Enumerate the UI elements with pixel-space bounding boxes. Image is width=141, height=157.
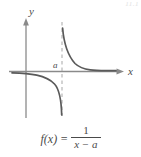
figure-container: 11.1 y x a f(x) =1x − a (0, 0, 141, 157)
y-axis-arrowhead (23, 18, 29, 26)
curve-left-branch (12, 73, 62, 115)
formula-numerator: 1 (71, 125, 100, 137)
asymptote-tick-label: a (53, 60, 58, 70)
formula-denominator: x − a (71, 138, 100, 150)
y-axis-label: y (28, 5, 34, 17)
curve-right-branch (63, 28, 116, 71)
graph-plot: y x a (0, 0, 141, 126)
x-axis-label: x (127, 65, 133, 77)
x-axis-arrowhead (117, 69, 125, 75)
formula-left-hand-side: f(x) = (40, 133, 68, 145)
function-formula: f(x) =1x − a (40, 126, 100, 151)
formula-fraction: 1x − a (71, 125, 100, 150)
figure-caption: f(x) =1x − a (0, 126, 141, 151)
